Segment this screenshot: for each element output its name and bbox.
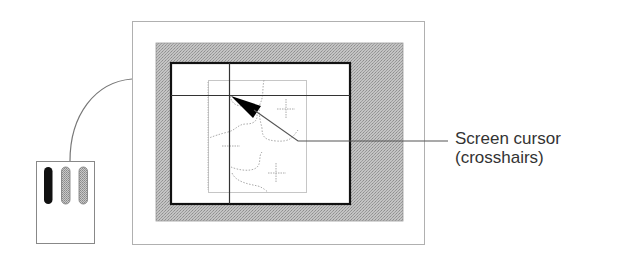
tablet-puck	[37, 162, 95, 244]
callout-label: Screen cursor (crosshairs)	[455, 129, 561, 167]
callout-line-2: (crosshairs)	[455, 148, 561, 167]
puck-cable	[70, 79, 132, 161]
puck-button-1[interactable]	[44, 167, 53, 204]
puck-button-2[interactable]	[62, 167, 71, 204]
callout-line-1: Screen cursor	[455, 129, 561, 148]
screen	[171, 63, 350, 204]
puck-button-3[interactable]	[79, 167, 88, 204]
